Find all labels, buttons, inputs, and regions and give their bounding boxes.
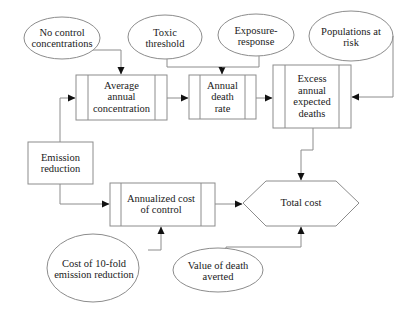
label-line: concentrations [31,38,92,50]
label-deathrate: Annual death rate [200,78,245,116]
label-line: Cost of 10-fold [62,258,126,270]
label-annualcost: Annualized cost of control [121,190,201,218]
label-cost10: Cost of 10-fold emission reduction [47,256,141,282]
edge-cost10-annual [148,227,161,250]
edge-toxic-rate [167,59,222,74]
label-line: threshold [145,38,184,50]
label-line: Annual [207,80,238,92]
label-line: concentration [93,103,150,115]
label-line: risk [343,37,359,49]
label-toxic: Toxic threshold [128,24,202,52]
label-line: Emission [41,152,80,164]
label-line: Average [104,80,139,92]
label-line: expected [293,96,330,108]
edge-vdeath-total [226,227,301,249]
label-line: of control [140,204,181,216]
label-excess: Excess annual expected deaths [285,72,339,120]
label-line: annual [298,85,326,97]
label-line: Total cost [281,197,322,209]
label-line: death [211,91,234,103]
edge-excess-total [301,128,313,180]
label-line: response [238,36,275,48]
label-line: Value of death [188,260,249,272]
label-line: averted [203,271,234,283]
label-line: Toxic [153,27,177,39]
label-line: rate [215,103,231,115]
label-line: Exposure- [234,25,277,37]
edge-exposure-rate [222,56,259,67]
label-line: emission reduction [54,269,134,281]
label-line: Excess [297,73,326,85]
label-line: Annualized cost [127,193,195,205]
edge-emission-annual [60,184,109,204]
label-avgconc: Average annual concentration [88,78,155,116]
label-line: annual [108,91,136,103]
label-line: deaths [299,108,326,120]
label-no-control: No control concentrations [22,24,102,52]
edge-emission-avg [60,98,75,142]
label-line: No control [39,27,84,39]
label-total: Total cost [266,196,336,210]
label-vdeath: Value of death averted [175,258,261,284]
label-line: Populations at [321,26,381,38]
label-exposure: Exposure- response [218,22,294,50]
label-emission: Emission reduction [28,148,93,178]
label-line: reduction [41,163,81,175]
edge-nocontrol-avg [93,50,121,74]
label-populations: Populations at risk [309,23,393,51]
